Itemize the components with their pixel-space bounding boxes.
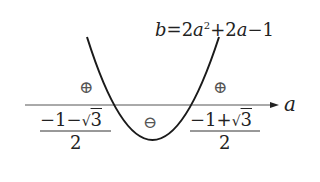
- equation-label: b=2a2+2a−1: [155, 16, 274, 40]
- left-root-radicand: 3: [91, 109, 102, 130]
- equation-const: 1: [263, 19, 274, 40]
- right-root-numerator-text: −1+: [190, 109, 232, 130]
- equation-var2: a: [237, 19, 248, 40]
- left-root-numerator-text: −1−: [40, 109, 82, 130]
- equation-coef1: 2: [182, 19, 193, 40]
- left-root-numerator: −1−√3: [40, 110, 102, 131]
- right-root-numerator: −1+√3: [190, 110, 252, 131]
- equation-coef2: 2: [225, 19, 236, 40]
- equation-var1: a: [193, 19, 204, 40]
- axis-arrowhead-icon: [270, 102, 279, 108]
- axis-label: a: [284, 93, 296, 115]
- equation-equals: =: [167, 19, 182, 40]
- left-root-radical-icon: √: [82, 113, 91, 129]
- right-root-radical-icon: √: [232, 113, 241, 129]
- sign-middle-negative: ⊖: [143, 113, 157, 131]
- sign-right-positive: ⊕: [213, 78, 227, 96]
- left-root-denominator: 2: [70, 133, 81, 153]
- right-root-denominator: 2: [219, 133, 230, 153]
- sign-left-positive: ⊕: [79, 78, 93, 96]
- equation-lhs-var: b: [155, 19, 167, 40]
- equation-minus: −: [247, 19, 262, 40]
- equation-plus: +: [210, 19, 225, 40]
- right-root-radicand: 3: [241, 109, 252, 130]
